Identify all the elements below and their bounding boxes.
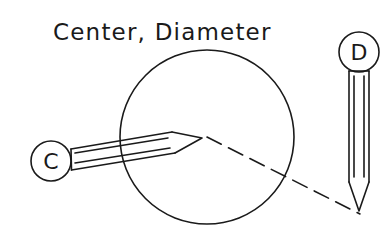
diagram-title: Center, Diameter xyxy=(53,19,272,45)
pencil-d-icon: D xyxy=(339,32,379,211)
center-diameter-diagram: Center, Diameter C D xyxy=(0,0,392,238)
pencil-c-label: C xyxy=(43,149,58,174)
pencil-d-label: D xyxy=(351,40,368,65)
diameter-dashed-line xyxy=(207,137,360,214)
pencil-c-icon: C xyxy=(31,132,202,181)
